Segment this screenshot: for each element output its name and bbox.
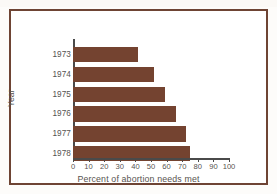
y-tick-label-1975: 1975 <box>35 87 71 105</box>
bar-1977 <box>73 126 186 141</box>
scan-artifact-band <box>0 0 277 7</box>
x-tick-50 <box>151 158 152 162</box>
x-axis-tick-labels: 0102030405060708090100 <box>73 162 229 174</box>
y-axis-tick-labels: 1973 1974 1975 1976 1977 1978 <box>35 47 71 157</box>
x-tick-label-10: 10 <box>84 162 92 171</box>
bar-row <box>73 87 273 105</box>
x-tick-label-50: 50 <box>147 162 155 171</box>
x-tick-label-100: 100 <box>223 162 236 171</box>
bar-row <box>73 106 273 124</box>
y-tick-label-1974: 1974 <box>35 67 71 85</box>
x-tick-label-0: 0 <box>71 162 75 171</box>
bar-1976 <box>73 106 176 121</box>
bar-row <box>73 126 273 144</box>
x-tick-100 <box>229 158 230 162</box>
x-tick-label-80: 80 <box>194 162 202 171</box>
x-tick-70 <box>182 158 183 162</box>
y-tick-label-1976: 1976 <box>35 106 71 124</box>
x-tick-label-40: 40 <box>131 162 139 171</box>
bar-1973 <box>73 47 138 62</box>
bar-1974 <box>73 67 154 82</box>
x-tick-label-20: 20 <box>100 162 108 171</box>
chart-frame: Year 1973 1974 1975 1976 1977 1978 0102 <box>9 9 268 185</box>
x-tick-30 <box>120 158 121 162</box>
plot-area: Year 1973 1974 1975 1976 1977 1978 0102 <box>11 11 266 183</box>
y-axis-title: Year <box>6 90 16 107</box>
bar-1975 <box>73 87 165 102</box>
bar-series <box>73 47 273 157</box>
x-tick-10 <box>89 158 90 162</box>
x-tick-40 <box>135 158 136 162</box>
x-tick-label-70: 70 <box>178 162 186 171</box>
y-tick-label-1977: 1977 <box>35 126 71 144</box>
y-tick-label-1978: 1978 <box>35 146 71 164</box>
x-tick-60 <box>167 158 168 162</box>
y-tick-label-1973: 1973 <box>35 47 71 65</box>
chart-figure: Year 1973 1974 1975 1976 1977 1978 0102 <box>0 0 277 194</box>
x-tick-20 <box>104 158 105 162</box>
x-tick-80 <box>198 158 199 162</box>
x-tick-label-90: 90 <box>209 162 217 171</box>
x-axis-title: Percent of abortion needs met <box>11 174 266 184</box>
x-tick-label-30: 30 <box>116 162 124 171</box>
bar-row <box>73 47 273 65</box>
bar-row <box>73 67 273 85</box>
x-tick-90 <box>213 158 214 162</box>
x-tick-label-60: 60 <box>162 162 170 171</box>
x-tick-0 <box>73 158 74 162</box>
